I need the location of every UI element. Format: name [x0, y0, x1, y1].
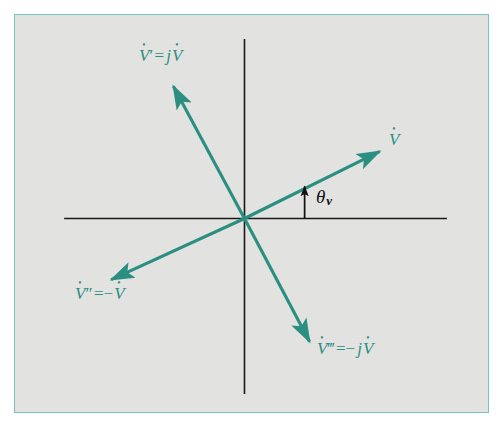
vector-label-v-double-prime-symbol: V — [75, 285, 85, 302]
vector-label-v-prime-mark: ′ — [149, 46, 153, 65]
vector-label-v-double-prime-mark: ″ — [85, 284, 93, 303]
vector-label-v-prime-j: j — [165, 46, 172, 65]
angle-label-theta-subscript: v — [325, 193, 332, 208]
angle-label-theta-v: θv — [316, 187, 332, 207]
vector-v — [244, 151, 379, 218]
vector-label-v-triple-prime-operator: =− — [335, 339, 356, 358]
vector-label-v-double-prime-operand: V — [114, 285, 124, 302]
vector-label-v-double-prime: V″=−V — [75, 285, 125, 302]
vector-label-v-triple-prime-mark: ‴ — [327, 339, 335, 358]
vector-label-v-text: V — [389, 131, 399, 148]
vector-v-double-prime — [111, 219, 244, 280]
vector-label-v-triple-prime: V‴=−jV — [317, 340, 373, 357]
angle-label-theta-symbol: θ — [316, 186, 325, 207]
vector-label-v: V — [389, 131, 399, 148]
vector-v-prime — [173, 86, 244, 218]
vector-label-v-triple-prime-symbol: V — [317, 340, 327, 357]
vector-label-v-triple-prime-j: j — [356, 339, 363, 358]
vector-label-v-double-prime-operator: =− — [93, 284, 114, 303]
vector-label-v-prime-operator: = — [154, 46, 166, 65]
vector-label-v-prime-operand: V — [172, 47, 182, 64]
phasor-plot — [15, 15, 488, 412]
figure-frame: V V′=jV V″=−V V‴=−jV θv — [14, 14, 489, 413]
phasor-figure: V V′=jV V″=−V V‴=−jV θv — [0, 0, 503, 427]
vector-label-v-prime-symbol: V — [139, 47, 149, 64]
vector-label-v-prime: V′=jV — [139, 47, 182, 64]
vector-label-v-triple-prime-operand: V — [363, 340, 373, 357]
vector-v-triple-prime — [244, 219, 309, 342]
